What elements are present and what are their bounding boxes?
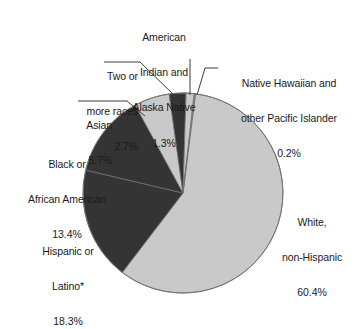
pie-label-line-1: Black or [6,159,128,171]
pie-label-white-non-hispanic: White, non-Hispanic 60.4% [266,193,358,323]
pie-label-value: 60.4% [266,287,358,299]
pie-label-native-hawaiian-and-other-pacific-islander: Native Hawaiian and other Pacific Island… [219,54,359,184]
pie-label-hispanic-or-latino: Hispanic or Latino* 18.3% [16,222,120,329]
pie-label-line-1: Two or [42,71,138,83]
pie-label-line-2: African American [6,194,128,206]
pie-label-line-2: non-Hispanic [266,252,358,264]
pie-label-line-1: American [103,32,225,44]
pie-label-line-1: Asian [30,120,112,132]
pie-label-line-2: other Pacific Islander [219,113,359,125]
pie-label-value: 18.3% [16,316,120,328]
pie-label-line-1: White, [266,217,358,229]
pie-label-line-1: Native Hawaiian and [219,78,359,90]
pie-label-line-1: Hispanic or [16,246,120,258]
pie-label-line-2: Latino* [16,281,120,293]
pie-label-value: 0.2% [219,148,359,160]
